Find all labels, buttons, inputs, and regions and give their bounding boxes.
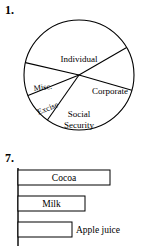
pie-chart-svg: Individual Corporate SocialSecurity Exci… bbox=[0, 16, 158, 140]
problem-number-1: 1. bbox=[5, 4, 14, 16]
pie-slice-label-corporate: Corporate bbox=[92, 86, 128, 96]
pie-chart-figure: Individual Corporate SocialSecurity Exci… bbox=[0, 16, 158, 140]
pie-slice-label-social: SocialSecurity bbox=[64, 109, 94, 130]
bar-chart-svg: Cocoa Milk Apple juice bbox=[0, 164, 158, 248]
pie-slice-label-individual: Individual bbox=[61, 54, 98, 64]
problem-number-7: 7. bbox=[5, 152, 14, 164]
bar-label-cocoa: Cocoa bbox=[52, 173, 77, 183]
bar-chart-figure: Cocoa Milk Apple juice bbox=[0, 164, 158, 248]
bar-apple-juice bbox=[18, 222, 72, 237]
bar-label-apple-juice: Apple juice bbox=[76, 225, 120, 235]
bar-label-milk: Milk bbox=[42, 199, 61, 209]
